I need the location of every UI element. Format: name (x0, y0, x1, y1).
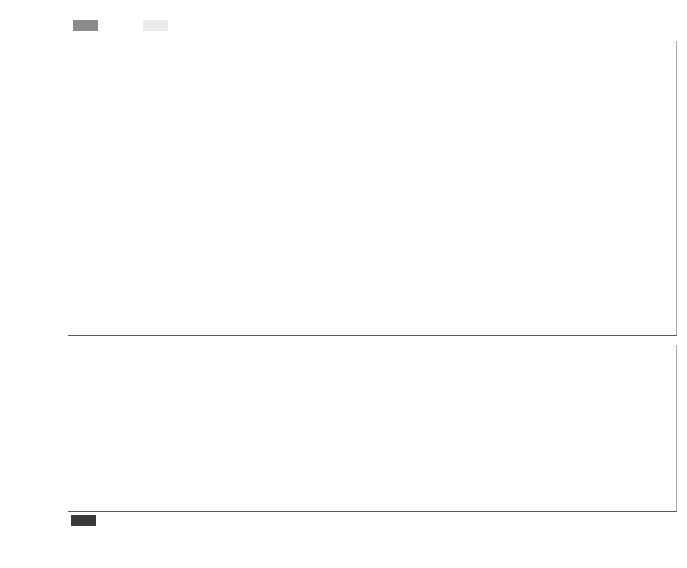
legend-top (73, 20, 176, 31)
minor-deviations-bars[interactable] (68, 41, 677, 336)
major-deviations-swatch-icon (71, 515, 96, 526)
legend-item-minor-deviations[interactable] (73, 20, 106, 31)
minor-deviations-swatch-icon (73, 20, 98, 31)
minor-deviations-plot[interactable] (68, 41, 677, 336)
figure-panel-b (0, 0, 687, 568)
bottom-plot-baseline (68, 511, 677, 512)
legend-item-major-deviations[interactable] (71, 515, 105, 526)
bottom-plot-right-border (676, 345, 677, 512)
legend-bottom (71, 515, 105, 526)
trend-swatch-icon (143, 20, 168, 31)
legend-item-trend[interactable] (143, 20, 176, 31)
figure-caption (0, 534, 687, 552)
top-plot-right-border (676, 41, 677, 336)
major-deviations-plot[interactable] (68, 345, 677, 512)
top-plot-baseline (68, 335, 677, 336)
